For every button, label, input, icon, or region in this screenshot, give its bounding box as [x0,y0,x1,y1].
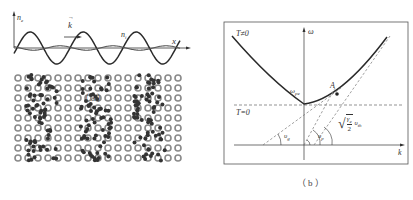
label-t-nonzero: T≠0 [236,29,249,38]
axis-y-label-ne: ne [17,13,23,23]
panel-b-dispersion: T≠0 ω k ωpe A T=0 υg υp √γe2 υth （b） [210,0,413,200]
ion-density-label: ni [121,30,126,40]
omega-pe-label: ωpe [290,87,300,96]
group-velocity-label: υg [284,132,290,141]
axis-x-label: x [172,36,176,46]
axis-y-label-omega: ω [308,27,314,36]
point-a-label: A [330,81,335,90]
caption-a: （a） [80,91,108,104]
axis-x-label-k: k [398,148,402,157]
panel-a-plasma-wave: ne x →k ni （a） [0,0,210,200]
phase-velocity-label: υp [318,132,324,141]
asymptote-velocity-label: √γe2 υth [338,114,362,133]
label-t-zero: T=0 [236,108,250,117]
wave-vector-label: →k [68,20,72,30]
caption-b: （b） [297,176,326,189]
